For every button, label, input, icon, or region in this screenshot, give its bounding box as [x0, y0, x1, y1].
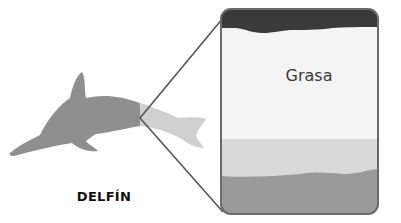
blubber-label: Grasa	[262, 66, 356, 85]
dolphin-body	[10, 72, 141, 156]
dolphin-label: DELFÍN	[68, 189, 140, 204]
diagram-canvas	[0, 0, 401, 223]
dolphin-silhouette-icon	[10, 72, 206, 156]
dolphin-blubber-diagram: Grasa DELFÍN	[0, 0, 401, 223]
skin-cross-section	[221, 9, 378, 214]
dolphin-tail	[140, 103, 206, 148]
